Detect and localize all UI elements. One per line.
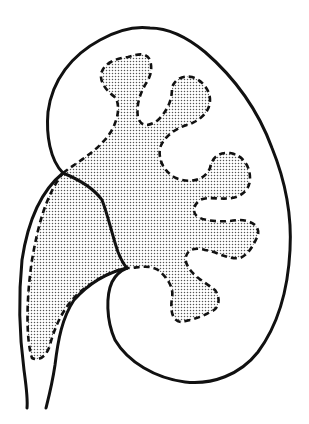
kidney-diagram <box>0 0 309 424</box>
renal-pelvis-calyces <box>28 54 259 359</box>
